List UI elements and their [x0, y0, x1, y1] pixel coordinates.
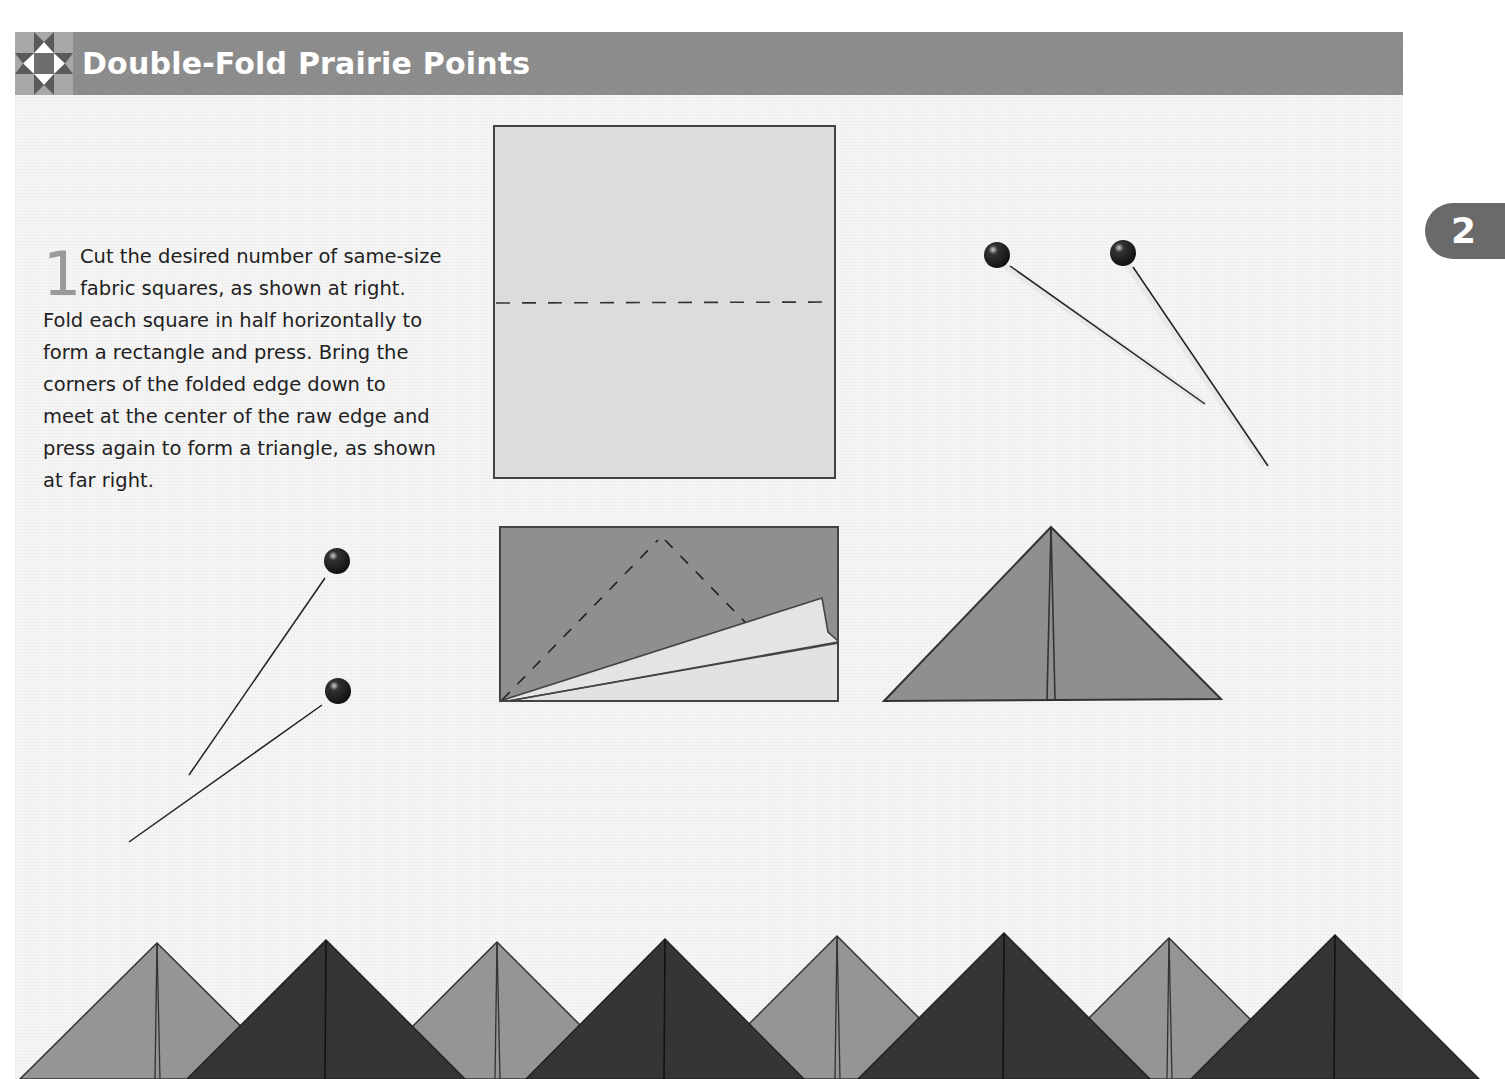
- finished-triangle-illustration: [884, 527, 1221, 701]
- pins-top-right: [984, 240, 1268, 466]
- folded-rectangle-illustration: [500, 527, 838, 701]
- prairie-point-border: [20, 933, 1479, 1079]
- fabric-square-illustration: [494, 126, 835, 478]
- pins-left: [129, 548, 351, 842]
